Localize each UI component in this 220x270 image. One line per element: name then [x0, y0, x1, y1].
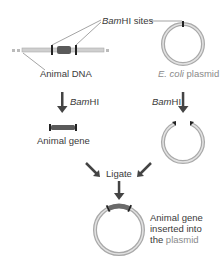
result-line-1: Animal gene [150, 212, 203, 223]
result-line-3b: plasmid [166, 234, 199, 245]
ligate-label: Ligate [106, 168, 132, 179]
result-label: Animal gene inserted into the plasmid [150, 212, 203, 245]
arrow-diag-right [137, 163, 151, 177]
bamhi-sites-rest: HI sites [122, 15, 154, 26]
animal-gene-label: Animal gene [37, 135, 90, 146]
recombinant-plasmid [95, 205, 143, 254]
cut-plasmid [163, 121, 203, 162]
animal-dna-strand [12, 45, 109, 55]
bamhi-sites-label: BamHI sites [102, 15, 153, 26]
ecoli-plasmid-label: E. coli plasmid [158, 68, 219, 79]
arrow-down-left [57, 92, 68, 113]
result-line-2: inserted into [150, 223, 203, 234]
animal-gene-fragment [49, 124, 77, 131]
bamhi-italic: Bam [102, 15, 122, 26]
bamhi-right-italic: Bam [152, 96, 172, 107]
bamhi-left-rest: HI [90, 96, 100, 107]
animal-dna-label: Animal DNA [40, 68, 92, 79]
bamhi-right-rest: HI [172, 96, 182, 107]
bamhi-right-label: BamHI [152, 96, 181, 107]
result-line-3a: the [150, 234, 166, 245]
arrow-down-ligate [114, 181, 125, 200]
bamhi-left-italic: Bam [70, 96, 90, 107]
result-line-3: the plasmid [150, 234, 203, 245]
bamhi-pointer-lines [23, 20, 182, 70]
ecoli-rest: plasmid [184, 68, 219, 79]
arrow-diag-left [86, 163, 100, 177]
ecoli-italic: E. coli [158, 68, 184, 79]
ecoli-plasmid [163, 21, 203, 64]
bamhi-left-label: BamHI [70, 96, 99, 107]
